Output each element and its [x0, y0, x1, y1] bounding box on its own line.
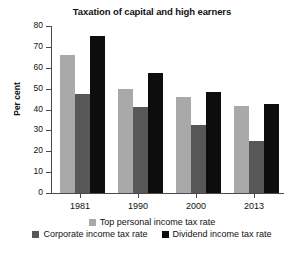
legend-label: Top personal income tax rate: [100, 216, 216, 228]
legend-item[interactable]: Dividend income tax rate: [162, 228, 272, 240]
y-axis-tick-label: 0: [38, 187, 43, 197]
x-axis-line: [51, 193, 284, 194]
y-axis-tick: 60: [46, 68, 51, 69]
legend-label: Dividend income tax rate: [173, 228, 272, 240]
bar[interactable]: [264, 104, 279, 193]
bar[interactable]: [60, 55, 75, 193]
plot-area: 01020304050607080 1981199020002013: [51, 26, 283, 193]
bar-group-bars: [234, 26, 279, 193]
bar[interactable]: [206, 92, 221, 193]
bar-group-bars: [118, 26, 163, 193]
y-axis-tick-label: 70: [34, 41, 43, 51]
y-axis-tick: 40: [46, 110, 51, 111]
legend-label: Corporate income tax rate: [43, 228, 147, 240]
y-axis-tick-label: 20: [34, 145, 43, 155]
y-axis-tick-label: 30: [34, 124, 43, 134]
y-axis-tick-label: 80: [34, 20, 43, 30]
y-axis-tick: 10: [46, 172, 51, 173]
bar[interactable]: [148, 73, 163, 193]
x-axis-tick: [138, 193, 139, 198]
y-axis-tick-label: 50: [34, 83, 43, 93]
legend-item[interactable]: Top personal income tax rate: [89, 216, 216, 228]
bar[interactable]: [176, 97, 191, 193]
bar[interactable]: [118, 89, 133, 193]
bar-group: [118, 26, 163, 193]
bar[interactable]: [75, 94, 90, 193]
bar-group-bars: [176, 26, 221, 193]
bar[interactable]: [191, 125, 206, 193]
bar-group: [234, 26, 279, 193]
bar[interactable]: [234, 106, 249, 193]
y-axis-tick-label: 40: [34, 104, 43, 114]
y-axis-line: [51, 26, 52, 194]
y-axis-tick: 70: [46, 47, 51, 48]
legend-swatch-icon: [32, 231, 39, 238]
legend-item[interactable]: Corporate income tax rate: [32, 228, 147, 240]
legend-swatch-icon: [89, 219, 96, 226]
bar[interactable]: [133, 107, 148, 193]
bar[interactable]: [90, 36, 105, 193]
y-axis-tick: 80: [46, 26, 51, 27]
y-axis-title: Per cent: [12, 69, 22, 129]
y-axis-tick: 20: [46, 151, 51, 152]
legend-swatch-icon: [162, 231, 169, 238]
y-axis-tick: 0: [46, 193, 51, 194]
x-axis-label: 1981: [50, 201, 110, 211]
y-axis-tick: 50: [46, 89, 51, 90]
x-axis-label: 1990: [108, 201, 168, 211]
x-axis-tick: [254, 193, 255, 198]
legend-row: Corporate income tax rateDividend income…: [0, 228, 304, 240]
chart-figure: Taxation of capital and high earners Per…: [0, 0, 304, 257]
chart-title: Taxation of capital and high earners: [0, 6, 304, 17]
bar-group: [60, 26, 105, 193]
x-axis-label: 2000: [166, 201, 226, 211]
x-axis-tick: [196, 193, 197, 198]
bar[interactable]: [249, 141, 264, 193]
chart-legend: Top personal income tax rateCorporate in…: [0, 216, 304, 240]
legend-row: Top personal income tax rate: [0, 216, 304, 228]
bar-group-bars: [60, 26, 105, 193]
bar-group: [176, 26, 221, 193]
x-axis-tick: [80, 193, 81, 198]
x-axis-label: 2013: [224, 201, 284, 211]
y-axis-tick-label: 10: [34, 166, 43, 176]
y-axis-tick-label: 60: [34, 62, 43, 72]
y-axis-tick: 30: [46, 130, 51, 131]
